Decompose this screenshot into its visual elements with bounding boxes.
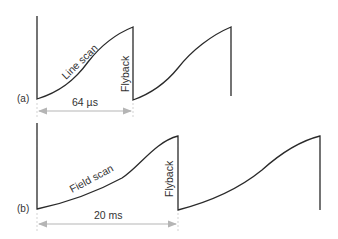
scan-label-a: Line scan <box>59 41 100 81</box>
waveform-b <box>37 123 320 210</box>
panel-b-label: (b) <box>17 203 29 214</box>
panel-a-label: (a) <box>17 93 29 104</box>
waveform-a <box>37 16 231 100</box>
period-label-b: 20 ms <box>94 209 123 221</box>
panel-a: (a) 64 µs Line scan Flyback <box>17 16 231 118</box>
scan-waveform-diagram: (a) 64 µs Line scan Flyback (b) 20 ms Fi… <box>0 0 338 239</box>
flyback-label-a: Flyback <box>119 55 131 92</box>
diagram-canvas: (a) 64 µs Line scan Flyback (b) 20 ms Fi… <box>0 0 338 239</box>
period-label-a: 64 µs <box>72 96 98 108</box>
flyback-label-b: Flyback <box>163 160 175 197</box>
panel-b: (b) 20 ms Field scan Flyback <box>17 123 320 232</box>
scan-label-b: Field scan <box>67 162 115 195</box>
